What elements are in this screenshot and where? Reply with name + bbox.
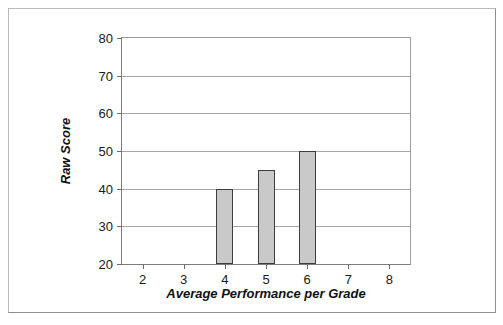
x-axis-tick-label: 4 [221, 273, 228, 286]
plot-area: 203040506070802345678 [121, 37, 411, 265]
y-axis-tick-label: 30 [99, 220, 113, 233]
y-axis-tick [117, 38, 122, 39]
y-axis-tick [117, 151, 122, 152]
y-axis-title: Raw Score [55, 37, 75, 265]
y-axis-tick-label: 20 [99, 258, 113, 271]
figure-frame: Raw Score 203040506070802345678 Average … [8, 8, 496, 313]
y-axis-tick-label: 60 [99, 107, 113, 120]
x-axis-tick-label: 7 [345, 273, 352, 286]
bar-chart: Raw Score 203040506070802345678 Average … [9, 9, 497, 314]
x-axis-tick [307, 264, 308, 269]
x-axis-tick-label: 5 [262, 273, 269, 286]
y-axis-tick-label: 70 [99, 69, 113, 82]
y-axis-tick [117, 189, 122, 190]
y-axis-tick [117, 264, 122, 265]
x-axis-tick-label: 3 [180, 273, 187, 286]
x-axis-tick-label: 6 [304, 273, 311, 286]
x-axis-title: Average Performance per Grade [121, 286, 411, 301]
x-axis-tick [266, 264, 267, 269]
y-axis-tick-label: 80 [99, 32, 113, 45]
bar [216, 189, 233, 264]
gridline [122, 151, 410, 152]
y-axis-tick-label: 40 [99, 182, 113, 195]
x-axis-tick [348, 264, 349, 269]
x-axis-tick [143, 264, 144, 269]
gridline [122, 113, 410, 114]
y-axis-tick [117, 76, 122, 77]
gridline [122, 76, 410, 77]
y-axis-tick [117, 226, 122, 227]
x-axis-tick [389, 264, 390, 269]
x-axis-tick [184, 264, 185, 269]
y-axis-tick [117, 113, 122, 114]
y-axis-tick-label: 50 [99, 145, 113, 158]
x-axis-tick [225, 264, 226, 269]
bar [258, 170, 275, 264]
x-axis-tick-label: 8 [386, 273, 393, 286]
bar [299, 151, 316, 264]
x-axis-tick-label: 2 [139, 273, 146, 286]
